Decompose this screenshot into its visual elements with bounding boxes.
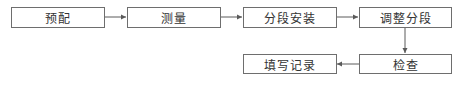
node-label: 分段安装 bbox=[264, 9, 316, 26]
node-measure: 测量 bbox=[127, 7, 221, 28]
node-segment-install: 分段安装 bbox=[243, 7, 337, 28]
node-fill-record: 填写记录 bbox=[243, 54, 337, 74]
node-label: 预配 bbox=[45, 9, 71, 26]
node-label: 检查 bbox=[393, 56, 419, 73]
node-preassembly: 预配 bbox=[11, 7, 105, 28]
node-label: 调整分段 bbox=[380, 9, 432, 26]
node-label: 测量 bbox=[161, 9, 187, 26]
node-label: 填写记录 bbox=[264, 56, 316, 73]
node-adjust-segment: 调整分段 bbox=[359, 7, 452, 28]
node-inspect: 检查 bbox=[359, 54, 452, 74]
